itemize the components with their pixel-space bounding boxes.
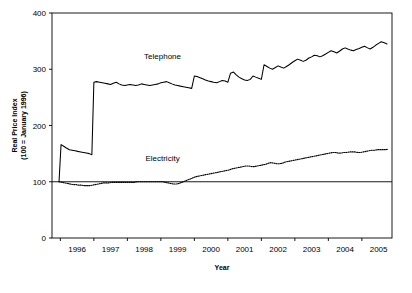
- x-tick-label: 2003: [303, 245, 321, 254]
- y-tick-label: 300: [33, 65, 47, 74]
- x-tick-label: 1998: [135, 245, 153, 254]
- y-tick-label: 400: [33, 9, 47, 18]
- x-tick-label: 2001: [236, 245, 254, 254]
- price-index-line-chart: 0100200300400 19961997199819992000200120…: [0, 0, 412, 293]
- x-tick-label: 2005: [370, 245, 388, 254]
- y-tick-label: 0: [42, 234, 47, 243]
- x-axis-title: Year: [215, 264, 230, 271]
- y-tick-label: 100: [33, 178, 47, 187]
- x-tick-label: 1997: [102, 245, 120, 254]
- y-tick-label: 200: [33, 122, 47, 131]
- annotation-telephone: Telephone: [144, 52, 181, 61]
- x-tick-label: 1999: [169, 245, 187, 254]
- x-tick-label: 2000: [202, 245, 220, 254]
- chart-figure: 0100200300400 19961997199819992000200120…: [0, 0, 412, 293]
- x-tick-label: 1996: [68, 245, 86, 254]
- x-tick-label: 2002: [269, 245, 287, 254]
- y-axis-title-line2: (100 = January 1996): [20, 91, 28, 160]
- x-tick-label: 2004: [336, 245, 354, 254]
- y-axis-title-line1: Real Price Index: [11, 98, 18, 152]
- annotation-electricity: Electricity: [145, 154, 179, 163]
